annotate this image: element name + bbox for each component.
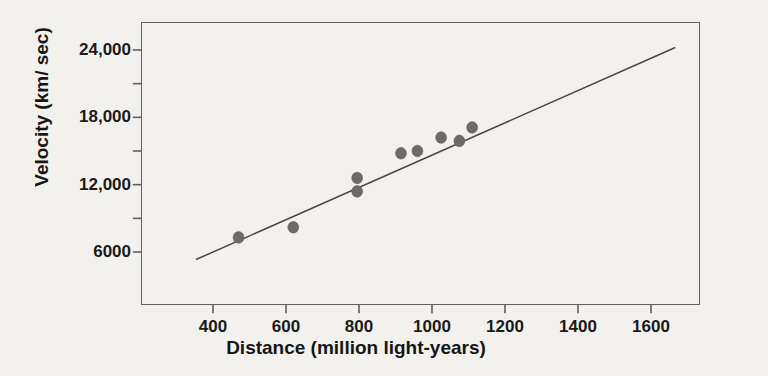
y-tick-label: 12,000 bbox=[79, 176, 131, 193]
x-tick-label: 1400 bbox=[559, 318, 597, 335]
x-tick-label: 600 bbox=[272, 318, 300, 335]
x-axis-title: Distance (million light-years) bbox=[141, 337, 571, 359]
x-tick-label: 1000 bbox=[413, 318, 451, 335]
x-tick-label: 1600 bbox=[632, 318, 670, 335]
y-tick-label: 24,000 bbox=[79, 41, 131, 58]
y-tick-label: 18,000 bbox=[79, 108, 131, 125]
plot-frame bbox=[141, 22, 700, 305]
x-tick-label: 800 bbox=[345, 318, 373, 335]
hubble-diagram-figure: 600012,00018,00024,000 40060080010001200… bbox=[0, 0, 768, 376]
x-tick-label: 400 bbox=[199, 318, 227, 335]
y-axis-title: Velocity (km/ sec) bbox=[31, 0, 53, 227]
x-tick-label: 1200 bbox=[486, 318, 524, 335]
x-axis-ticks bbox=[213, 304, 651, 313]
y-tick-label: 6000 bbox=[93, 243, 131, 260]
